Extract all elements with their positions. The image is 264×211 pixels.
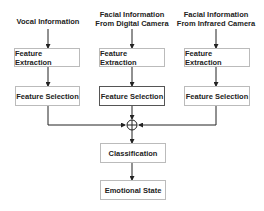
emotional-state-box: Emotional State: [100, 180, 166, 200]
input-label-line: Vocal Information: [17, 17, 80, 26]
input-label-line: From Digital Camera: [92, 19, 172, 28]
input-label-line: Facial Information: [92, 10, 172, 19]
feature-selection-box-vocal: Feature Selection: [15, 86, 80, 106]
diagram-canvas: Vocal Information Facial Information Fro…: [0, 0, 264, 211]
feature-extraction-box-vocal: Feature Extraction: [14, 48, 80, 67]
feature-selection-box-digital: Feature Selection: [99, 86, 165, 106]
input-label-infrared-camera: Facial Information From Infrared Camera: [172, 10, 260, 28]
input-label-vocal: Vocal Information: [8, 17, 88, 26]
input-label-line: From Infrared Camera: [172, 19, 260, 28]
feature-selection-box-infrared: Feature Selection: [184, 86, 250, 106]
feature-extraction-box-infrared: Feature Extraction: [184, 48, 250, 67]
input-label-line: Facial Information: [172, 10, 260, 19]
input-label-digital-camera: Facial Information From Digital Camera: [92, 10, 172, 28]
classification-box: Classification: [100, 143, 166, 163]
feature-extraction-box-digital: Feature Extraction: [99, 48, 165, 67]
